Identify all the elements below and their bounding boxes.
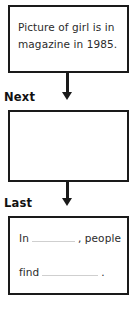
sequence-box-first[interactable]: Picture of girl is in magazine in 1985. bbox=[8, 5, 129, 73]
sentence-blank-2[interactable] bbox=[42, 266, 98, 276]
arrow-head-icon bbox=[62, 198, 72, 206]
step-label-next: Next bbox=[4, 90, 35, 104]
arrow-head-icon bbox=[62, 92, 72, 100]
sentence-frame-row-1: In , people bbox=[19, 230, 121, 258]
sentence-part-period: . bbox=[101, 264, 104, 281]
sentence-part-people: , people bbox=[78, 230, 121, 247]
down-arrow-icon-first-to-middle bbox=[66, 73, 69, 93]
sequencing-worksheet: Picture of girl is in magazine in 1985. … bbox=[0, 0, 139, 310]
sentence-part-in: In bbox=[19, 230, 29, 247]
sentence-blank-1[interactable] bbox=[32, 232, 75, 242]
sequence-box-middle[interactable] bbox=[8, 110, 129, 182]
first-box-text: Picture of girl is in magazine in 1985. bbox=[18, 19, 122, 53]
sentence-frame-row-2: find . bbox=[19, 264, 121, 292]
first-box-text-line-1: Picture of girl is in bbox=[18, 19, 122, 36]
sentence-part-find: find bbox=[19, 264, 39, 281]
step-label-last: Last bbox=[4, 196, 32, 210]
sentence-frame: In , people find . bbox=[19, 230, 121, 292]
sequence-box-last[interactable]: In , people find . bbox=[8, 216, 129, 295]
down-arrow-icon-middle-to-last bbox=[66, 182, 69, 199]
first-box-text-line-2: magazine in 1985. bbox=[18, 36, 122, 53]
